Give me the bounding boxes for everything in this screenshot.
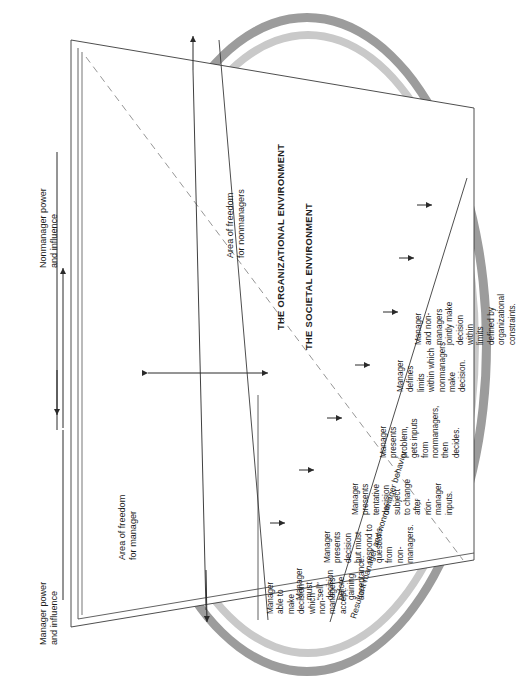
label-societal-environment: THE SOCIETAL ENVIRONMENT — [304, 203, 314, 350]
step-text-7: Manager and non- managers jointly make d… — [414, 294, 518, 345]
step-text-6: Manager defines limits within which nonm… — [396, 342, 469, 392]
step-text-3: Manager presents decision but must respo… — [323, 524, 417, 563]
step-text-4: Manager presents tentative decision subj… — [351, 479, 455, 515]
label-nonmanager-power: Nonmanager power and influence — [38, 188, 61, 268]
label-area-of-freedom-manager: Area of freedom for manager — [117, 495, 140, 560]
label-organizational-environment: THE ORGANIZATIONAL ENVIRONMENT — [276, 144, 286, 330]
step-text-5: Manager presents problem, gets inputs fr… — [379, 406, 462, 458]
label-area-of-freedom-nonmanagers: Area of freedom for nonmanagers — [225, 189, 248, 258]
label-manager-power: Manager power and influence — [38, 582, 61, 645]
